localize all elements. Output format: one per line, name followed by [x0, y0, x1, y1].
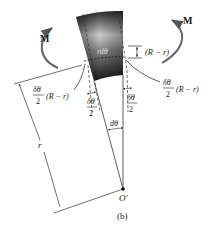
offset-bracket [128, 46, 142, 58]
bending-element-diagram: r O′ (b) M M rdθ (R − r) δθ 2 (R − r) δθ… [0, 0, 213, 239]
center-angle-label: dθ [110, 119, 118, 128]
svg-text:δθ: δθ [127, 93, 135, 102]
right-displacement-label: δθ 2 (R − r) [163, 78, 199, 99]
offset-label: (R − r) [145, 47, 169, 57]
radius-dimension [14, 65, 123, 213]
svg-text:δθ: δθ [87, 97, 95, 106]
right-leader [126, 60, 160, 82]
left-half-angle-label: δθ 2 [87, 97, 97, 118]
right-half-angle-label: δθ 2 [127, 93, 137, 114]
svg-text:δθ: δθ [163, 78, 171, 87]
arc-length-label: rdθ [97, 47, 108, 56]
figure-caption: (b) [117, 211, 128, 221]
svg-text:2: 2 [36, 97, 40, 106]
svg-text:δθ: δθ [33, 85, 41, 94]
radius-label: r [38, 140, 42, 150]
center-label: O′ [119, 193, 128, 203]
svg-text:2: 2 [89, 109, 93, 118]
svg-text:(R − r): (R − r) [46, 92, 69, 101]
radial-lines [94, 75, 123, 189]
svg-text:2: 2 [129, 105, 133, 114]
moment-left-label: M [40, 33, 50, 44]
left-displacement-label: δθ 2 (R − r) [33, 85, 69, 106]
left-leader [74, 64, 85, 90]
svg-text:2: 2 [166, 90, 170, 99]
center-point [121, 187, 125, 191]
moment-right-label: M [183, 15, 193, 26]
svg-text:(R − r): (R − r) [176, 85, 199, 94]
